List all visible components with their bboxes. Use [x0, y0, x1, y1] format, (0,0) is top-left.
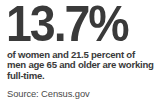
source-attribution: Source: Census.gov — [7, 88, 90, 99]
description-line-3: full-time. — [7, 71, 162, 81]
statistic-callout-card: 13.7% of women and 21.5 percent of men a… — [0, 0, 162, 103]
headline-percentage: 13.7% — [6, 0, 128, 49]
statistic-description: of women and 21.5 percent of men age 65 … — [7, 50, 162, 81]
